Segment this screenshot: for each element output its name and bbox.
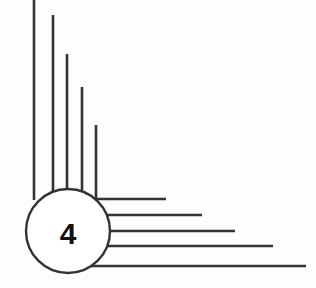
number-badge-label: 4 [60, 217, 77, 250]
step-diagram: 4 [0, 0, 316, 288]
horizontal-lines [90, 199, 306, 266]
vertical-lines [34, 0, 96, 200]
